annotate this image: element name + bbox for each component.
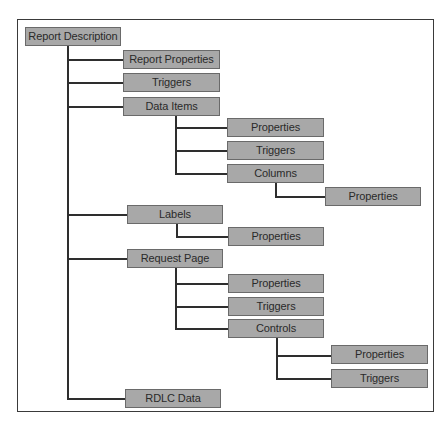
node-controls-properties: Properties (331, 345, 428, 364)
connector-data-items-properties (175, 127, 228, 129)
connector-data-items-triggers (175, 150, 228, 152)
connector-request-page-triggers (175, 306, 229, 308)
connector-root-trunk (67, 46, 69, 399)
node-columns-properties: Properties (325, 187, 421, 206)
connector-data-items-trunk (175, 116, 177, 174)
connector-root-triggers (67, 82, 124, 84)
connector-root-labels (67, 214, 128, 216)
connector-labels-properties (176, 236, 229, 238)
node-labels: Labels (127, 205, 223, 224)
connector-data-items-columns (175, 173, 228, 175)
node-labels-properties: Properties (228, 227, 324, 246)
connector-request-page-properties (175, 283, 229, 285)
node-controls: Controls (228, 319, 324, 338)
connector-labels-trunk (176, 223, 178, 237)
connector-root-request-page (67, 258, 128, 260)
node-request-page-triggers: Triggers (228, 297, 324, 316)
node-request-page: Request Page (127, 249, 223, 268)
node-controls-triggers: Triggers (331, 369, 428, 388)
node-report-properties: Report Properties (123, 50, 220, 69)
node-request-page-properties: Properties (228, 274, 324, 293)
node-data-items-properties: Properties (227, 118, 324, 137)
connector-controls-trunk (276, 338, 278, 379)
connector-root-data-items (67, 106, 124, 108)
connector-columns-trunk (275, 182, 277, 197)
connector-root-report-properties (67, 59, 124, 61)
node-rdlc-data: RDLC Data (125, 389, 221, 408)
connector-columns-properties (275, 196, 326, 198)
node-data-items: Data Items (123, 97, 220, 116)
connector-controls-triggers (276, 378, 332, 380)
node-columns: Columns (227, 164, 324, 183)
connector-root-rdlc-data (67, 398, 126, 400)
node-data-items-triggers: Triggers (227, 141, 324, 160)
connector-request-page-controls (175, 328, 229, 330)
connector-request-page-trunk (175, 268, 177, 329)
node-report-description: Report Description (25, 27, 121, 46)
node-triggers: Triggers (123, 73, 220, 92)
connector-controls-properties (276, 355, 332, 357)
